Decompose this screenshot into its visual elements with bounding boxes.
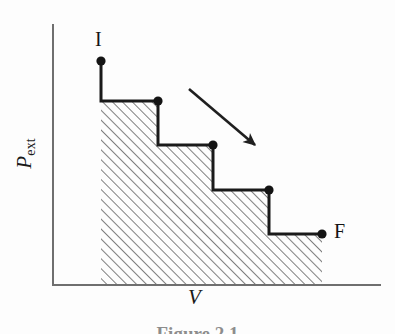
state-point-initial — [96, 56, 105, 65]
process-direction-arrow — [189, 89, 255, 145]
state-point-final — [317, 229, 326, 238]
y-axis-label-symbol: P — [12, 156, 36, 169]
final-state-label: F — [334, 220, 345, 243]
state-point-step-1 — [153, 96, 162, 105]
y-axis-label: Pext — [12, 138, 39, 168]
state-point-step-2 — [208, 140, 217, 149]
y-axis-label-subscript: ext — [23, 138, 38, 155]
x-axis-label: V — [188, 285, 201, 310]
initial-state-label: I — [95, 28, 102, 51]
hatched-work-area — [101, 101, 322, 285]
pv-diagram-canvas — [0, 0, 395, 334]
pv-diagram-figure: Pext V I F Figure 2.1 — [0, 0, 395, 334]
state-point-step-3 — [264, 185, 273, 194]
figure-caption: Figure 2.1 — [0, 324, 395, 334]
